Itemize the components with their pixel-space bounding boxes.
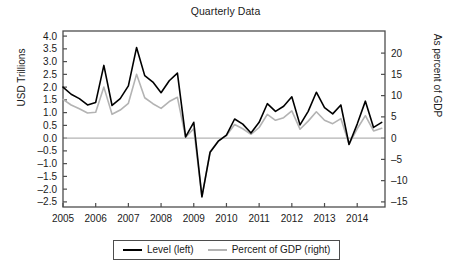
y-tick-label-left: –1.0 xyxy=(38,158,58,169)
y-tick-label-right: –5 xyxy=(391,154,403,165)
x-tick-label: 2011 xyxy=(248,213,270,224)
x-tick-label: 2005 xyxy=(52,213,75,224)
x-tick-label: 2012 xyxy=(281,213,304,224)
y-tick-label-left: –0.5 xyxy=(38,145,58,156)
y-tick-label-left: 1.5 xyxy=(43,94,57,105)
y-tick-label-left: 0.0 xyxy=(43,133,57,144)
y-tick-label-right: 5 xyxy=(391,111,397,122)
y-tick-label-left: 1.0 xyxy=(43,107,57,118)
y-tick-label-right: 0 xyxy=(391,133,397,144)
y-tick-label-left: 4.0 xyxy=(43,31,57,42)
legend-swatch-percent-icon xyxy=(208,249,227,251)
y-tick-label-left: 3.0 xyxy=(43,56,57,67)
x-tick-label: 2006 xyxy=(85,213,108,224)
x-tick-label: 2009 xyxy=(183,213,206,224)
y-tick-label-right: 10 xyxy=(391,90,403,101)
y-tick-label-left: –2.0 xyxy=(38,184,58,195)
y-tick-label-right: 15 xyxy=(391,69,403,80)
legend-label-level: Level (left) xyxy=(147,244,194,255)
y-tick-label-left: 2.5 xyxy=(43,69,57,80)
y-tick-label-right: 20 xyxy=(391,48,403,59)
x-tick-label: 2007 xyxy=(117,213,140,224)
y-tick-label-left: 3.5 xyxy=(43,43,57,54)
series-line-percent-of-gdp xyxy=(63,74,382,196)
chart-figure: Quarterly Data USD Trillions As percent … xyxy=(0,0,451,272)
legend-label-percent-of-gdp: Percent of GDP (right) xyxy=(232,244,331,255)
x-tick-label: 2010 xyxy=(215,213,238,224)
y-tick-label-left: –2.5 xyxy=(38,196,58,207)
legend-swatch-level-icon xyxy=(123,249,142,251)
x-tick-label: 2014 xyxy=(346,213,369,224)
x-tick-label: 2008 xyxy=(150,213,173,224)
y-tick-label-left: 0.5 xyxy=(43,120,57,131)
legend-item-level[interactable]: Level (left) xyxy=(123,244,194,255)
y-tick-label-left: 2.0 xyxy=(43,82,57,93)
y-tick-label-right: –10 xyxy=(391,175,408,186)
x-tick-label: 2013 xyxy=(313,213,336,224)
plot-frame xyxy=(63,31,385,207)
legend-item-percent-of-gdp[interactable]: Percent of GDP (right) xyxy=(208,244,331,255)
chart-legend: Level (left) Percent of GDP (right) xyxy=(113,240,340,260)
y-tick-label-left: –1.5 xyxy=(38,171,58,182)
plot-area: 4.03.53.02.52.01.51.00.50.0–0.5–1.0–1.5–… xyxy=(0,0,451,272)
x-axis-ticks: 2005200620072008200920102011201220132014 xyxy=(52,203,369,224)
y-tick-label-right: –15 xyxy=(391,196,408,207)
